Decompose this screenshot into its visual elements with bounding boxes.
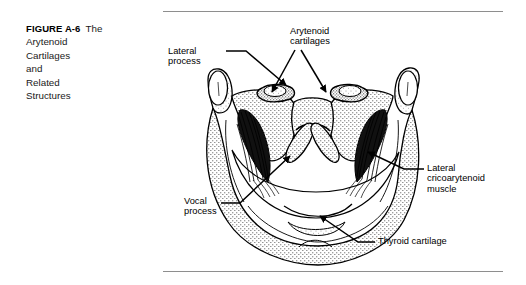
label-line: cartilages: [290, 36, 330, 46]
label-line: muscle: [427, 184, 485, 194]
anterior-commissure: [288, 222, 345, 236]
label-thyroid-cartilage: Thyroid cartilage: [378, 236, 447, 246]
larynx-drawing: [207, 50, 424, 265]
label-arytenoid-cartilages: Arytenoid cartilages: [290, 26, 330, 47]
arytenoid-apex-right: [339, 86, 361, 97]
horn-facet-left: [209, 71, 228, 105]
larynx-illustration: [0, 0, 526, 285]
label-vocal-process: Vocal process: [184, 196, 217, 217]
label-line: cricoarytenoid: [427, 173, 485, 183]
label-line: process: [168, 56, 201, 66]
label-line: Lateral: [168, 46, 201, 56]
figure-page: FIGURE A-6 The Arytenoid Cartilages and …: [0, 0, 526, 285]
label-line: Vocal: [184, 196, 217, 206]
label-lateral-process: Lateral process: [168, 46, 201, 67]
leader-lateral-process: [226, 51, 286, 85]
label-lateral-cricoarytenoid-muscle: Lateral cricoarytenoid muscle: [427, 163, 485, 194]
label-line: process: [184, 206, 217, 216]
label-line: Arytenoid: [290, 26, 330, 36]
label-line: Thyroid cartilage: [378, 236, 447, 246]
label-line: Lateral: [427, 163, 485, 173]
horn-facet-right: [399, 71, 418, 105]
leader-arytenoid-right: [301, 50, 326, 92]
